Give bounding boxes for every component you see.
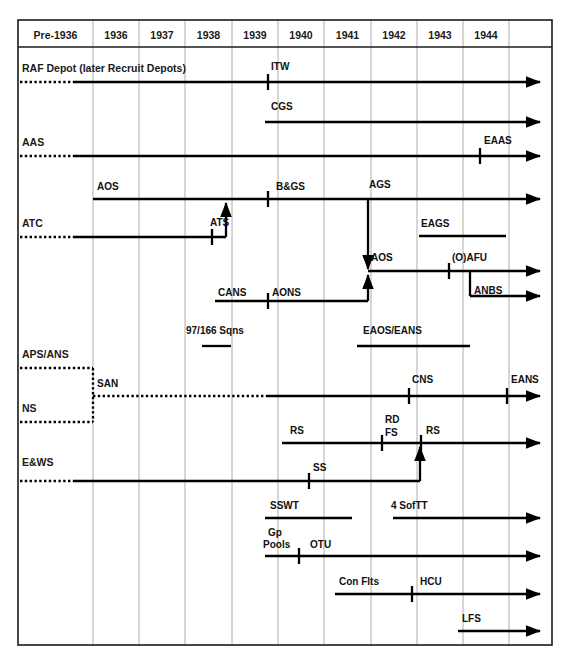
segment-label-itw-0: ITW: [271, 61, 290, 72]
segment-label-hcu-29: HCU: [420, 576, 442, 587]
segment-label-lfs-30: LFS: [462, 613, 481, 624]
row-label-raf-depot-later-recruit-depots: RAF Depot (later Recruit Depots): [22, 62, 186, 74]
row-label-ns: NS: [22, 402, 37, 414]
segment-label-eaas-2: EAAS: [484, 135, 512, 146]
segment-label-rs-21: RS: [426, 425, 440, 436]
year-header-1944: 1944: [474, 29, 498, 41]
segment-label-b-gs-4: B&GS: [276, 181, 305, 192]
year-header-1936: 1936: [104, 29, 128, 41]
row-label-aas: AAS: [22, 136, 44, 148]
timeline-canvas: Pre-193619361937193819391940194119421943…: [0, 0, 569, 661]
segment-label-eans-17: EANS: [511, 374, 539, 385]
segment-label-cans-10: CANS: [218, 287, 247, 298]
row-label-atc: ATC: [22, 217, 43, 229]
timeline-diagram: Pre-193619361937193819391940194119421943…: [0, 0, 569, 661]
segment-label-aons-11: AONS: [272, 287, 301, 298]
segment-label-4-softt-24: 4 SofTT: [391, 500, 428, 511]
segment-label-pools-26: Pools: [263, 539, 291, 550]
year-header-1937: 1937: [150, 29, 174, 41]
segment-label-otu-27: OTU: [310, 539, 331, 550]
segment-label-rs-18: RS: [290, 425, 304, 436]
segment-label-anbs-12: ANBS: [474, 285, 503, 296]
canvas-background: [0, 0, 569, 661]
year-header-1941: 1941: [336, 29, 360, 41]
segment-label-eags-7: EAGS: [421, 218, 450, 229]
segment-label-cns-16: CNS: [412, 374, 433, 385]
year-header-pre-1936: Pre-1936: [34, 29, 78, 41]
segment-label-o-afu-9: (O)AFU: [452, 252, 487, 263]
segment-label-con-flts-28: Con Flts: [339, 576, 379, 587]
segment-label-aos-3: AOS: [97, 181, 119, 192]
segment-label-gp-25: Gp: [268, 527, 282, 538]
year-header-1940: 1940: [289, 29, 313, 41]
segment-label-fs-20: FS: [385, 427, 398, 438]
segment-label-ags-5: AGS: [369, 179, 391, 190]
segment-label-sswt-23: SSWT: [270, 500, 299, 511]
segment-label-97-166-sqns-13: 97/166 Sqns: [186, 325, 244, 336]
segment-label-san-15: SAN: [97, 378, 118, 389]
segment-label-ats-6: ATS: [210, 217, 230, 228]
row-label-e-ws: E&WS: [22, 456, 54, 468]
segment-label-eaos-eans-14: EAOS/EANS: [363, 325, 422, 336]
row-label-aps-ans: APS/ANS: [22, 348, 69, 360]
year-header-1939: 1939: [243, 29, 267, 41]
segment-label-ss-22: SS: [313, 462, 327, 473]
segment-label-aos-8: AOS: [371, 252, 393, 263]
segment-label-rd-19: RD: [385, 414, 399, 425]
segment-label-cgs-1: CGS: [271, 101, 293, 112]
year-header-1938: 1938: [197, 29, 221, 41]
year-header-1943: 1943: [428, 29, 452, 41]
year-header-1942: 1942: [382, 29, 406, 41]
